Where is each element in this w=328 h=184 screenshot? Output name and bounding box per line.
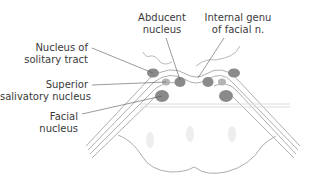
label-internal-genu-of-facial-n: Internal genu of facial n. <box>196 12 280 36</box>
label-line: Nucleus of <box>4 42 88 54</box>
label-line: Superior <box>0 79 88 91</box>
abducent-nucleus-left <box>175 77 186 87</box>
label-line: solitary tract <box>4 54 88 66</box>
leader-solitary <box>92 48 153 73</box>
label-line: of facial n. <box>196 24 280 36</box>
nucleus-solitary-tract-right <box>228 69 240 78</box>
label-line: Internal genu <box>196 12 280 24</box>
label-facial-nucleus: Facial nucleus <box>20 111 78 135</box>
label-line: salivatory nucleus <box>0 91 88 103</box>
facial-nucleus-right <box>219 90 233 102</box>
superior-salivatory-right <box>218 79 226 86</box>
label-nucleus-of-solitary-tract: Nucleus of solitary tract <box>4 42 88 66</box>
ventral-pons-outline <box>118 135 276 173</box>
pyramidal-tracts-faint <box>146 126 236 148</box>
label-line: Facial <box>20 111 78 123</box>
ventricle-floor-outline <box>143 46 240 66</box>
abducent-nucleus-right <box>203 77 214 87</box>
label-line: nucleus <box>20 123 78 135</box>
facial-nerve-fibers <box>86 70 300 158</box>
leader-genu <box>198 38 224 78</box>
leader-salivatory <box>92 82 166 85</box>
leader-facial <box>82 96 162 114</box>
label-line: nucleus <box>130 24 194 36</box>
label-line: Abducent <box>130 12 194 24</box>
label-superior-salivatory-nucleus: Superior salivatory nucleus <box>0 79 88 103</box>
horizontal-tracts <box>140 104 290 107</box>
label-abducent-nucleus: Abducent nucleus <box>130 12 194 36</box>
leader-abducent <box>166 38 180 80</box>
